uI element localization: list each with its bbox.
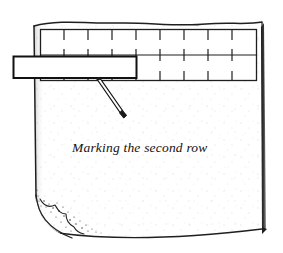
gauge-body [14, 57, 137, 79]
fabric-corner-tick [262, 227, 267, 234]
page-title: Marking the second row [71, 140, 208, 155]
illustration-canvas: Marking the second row [0, 0, 283, 253]
marking-gauge [14, 57, 137, 79]
illustration-figure: Marking the second row [0, 0, 283, 253]
